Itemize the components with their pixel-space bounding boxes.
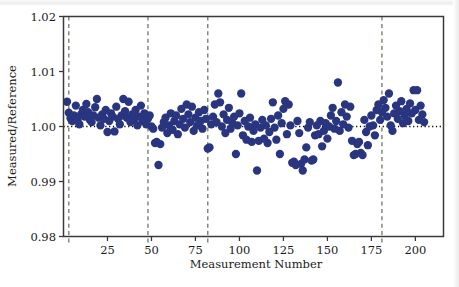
svg-text:175: 175 xyxy=(360,243,382,257)
svg-text:200: 200 xyxy=(404,243,426,257)
svg-text:75: 75 xyxy=(188,243,203,257)
svg-text:0.98: 0.98 xyxy=(30,230,56,244)
svg-text:1.02: 1.02 xyxy=(30,10,56,24)
svg-text:1.00: 1.00 xyxy=(30,120,56,134)
svg-text:25: 25 xyxy=(100,243,115,257)
x-axis-label: Measurement Number xyxy=(190,257,323,271)
svg-text:100: 100 xyxy=(228,243,250,257)
scan-artifact-top xyxy=(0,0,459,6)
svg-text:1.01: 1.01 xyxy=(30,65,56,79)
svg-text:125: 125 xyxy=(272,243,294,257)
svg-text:0.99: 0.99 xyxy=(30,175,56,189)
figure-container: 255075100125150175200 0.980.991.001.011.… xyxy=(0,0,459,287)
x-axis-ticks: 255075100125150175200 xyxy=(100,237,426,258)
scan-artifact-right xyxy=(453,0,459,287)
svg-text:150: 150 xyxy=(316,243,338,257)
y-axis-ticks: 0.980.991.001.011.02 xyxy=(30,10,63,244)
y-axis-label: Measured/Reference xyxy=(5,65,19,187)
scatter-plot: 255075100125150175200 0.980.991.001.011.… xyxy=(0,0,459,287)
svg-text:50: 50 xyxy=(144,243,159,257)
